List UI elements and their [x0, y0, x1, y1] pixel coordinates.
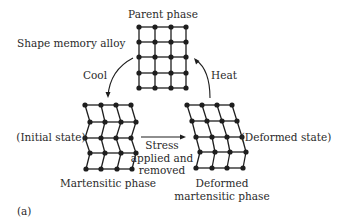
atom-node	[136, 85, 141, 90]
atom-node	[113, 135, 118, 140]
shape-memory-alloy-diagram: Shape memory alloyParent phaseCoolHeat(I…	[0, 0, 337, 223]
label-deformed-state: (Deformed state)	[241, 131, 332, 143]
atom-node	[168, 39, 173, 44]
atom-node	[183, 39, 188, 44]
atom-node	[98, 102, 103, 107]
arrow-layer	[106, 58, 211, 140]
arrowhead-icon	[106, 92, 111, 98]
atom-node	[102, 150, 107, 155]
atom-node	[128, 135, 133, 140]
atom-node	[133, 119, 138, 124]
atom-node	[152, 39, 157, 44]
atom-node	[224, 134, 229, 139]
atom-node	[199, 102, 204, 107]
atom-node	[214, 102, 219, 107]
bond	[85, 105, 90, 122]
label-deformed-martensitic-2: martensitic phase	[174, 190, 269, 202]
arrowhead-icon	[194, 58, 200, 65]
label-parent-phase: Parent phase	[128, 8, 198, 20]
arrowhead-icon	[180, 135, 186, 140]
atom-node	[183, 54, 188, 59]
label-deformed-martensitic-1: Deformed	[196, 177, 249, 189]
atom-node	[136, 54, 141, 59]
atom-node	[229, 102, 234, 107]
label-initial-state: (Initial state)	[16, 131, 85, 143]
atom-node	[118, 119, 123, 124]
atom-node	[168, 70, 173, 75]
atom-node	[212, 149, 217, 154]
label-title: Shape memory alloy	[17, 37, 126, 49]
atom-node	[136, 24, 141, 29]
atom-node	[87, 150, 92, 155]
bond	[116, 105, 121, 122]
atom-node	[136, 70, 141, 75]
bond	[131, 105, 136, 122]
atom-node	[98, 135, 103, 140]
atom-node	[209, 134, 214, 139]
atom-node	[197, 149, 202, 154]
atom-node	[243, 149, 248, 154]
arrow-shaft	[108, 58, 133, 96]
bond	[101, 105, 105, 122]
heat-arrow	[194, 58, 210, 98]
atom-node	[152, 54, 157, 59]
atom-node	[204, 118, 209, 123]
atom-node	[152, 24, 157, 29]
diagram-canvas: Shape memory alloyParent phaseCoolHeat(I…	[0, 0, 337, 223]
label-heat: Heat	[211, 69, 238, 81]
atom-node	[183, 24, 188, 29]
atom-node	[193, 165, 198, 170]
arrow-shaft	[196, 60, 210, 98]
atom-node	[183, 85, 188, 90]
atom-node	[128, 102, 133, 107]
atom-node	[136, 39, 141, 44]
cool-arrow	[106, 58, 134, 98]
atom-node	[227, 149, 232, 154]
atom-node	[209, 165, 214, 170]
atom-node	[118, 150, 123, 155]
atom-node	[152, 85, 157, 90]
atom-node	[168, 54, 173, 59]
atom-node	[234, 118, 239, 123]
atom-node	[240, 165, 245, 170]
atom-node	[87, 119, 92, 124]
atom-node	[219, 118, 224, 123]
label-layer: Shape memory alloyParent phaseCoolHeat(I…	[16, 8, 331, 217]
atom-node	[224, 165, 229, 170]
atom-node	[98, 166, 103, 171]
label-martensitic-phase: Martensitic phase	[60, 177, 156, 189]
atom-node	[184, 102, 189, 107]
atom-node	[168, 24, 173, 29]
atom-node	[183, 70, 188, 75]
parent-phase-lattice	[136, 24, 188, 90]
label-stress-3: removed	[139, 164, 186, 176]
label-stress-2: applied and	[131, 152, 194, 164]
label-panel-label: (a)	[17, 205, 31, 217]
atom-node	[152, 70, 157, 75]
atom-node	[113, 102, 118, 107]
label-stress-1: Stress	[145, 139, 178, 151]
atom-node	[189, 118, 194, 123]
deformed-martensitic-lattice	[184, 102, 248, 170]
atom-node	[102, 119, 107, 124]
atom-node	[114, 166, 119, 171]
atom-node	[83, 166, 88, 171]
label-cool: Cool	[83, 69, 108, 81]
atom-node	[129, 166, 134, 171]
atom-node	[168, 85, 173, 90]
atom-node	[82, 102, 87, 107]
atom-node	[193, 134, 198, 139]
